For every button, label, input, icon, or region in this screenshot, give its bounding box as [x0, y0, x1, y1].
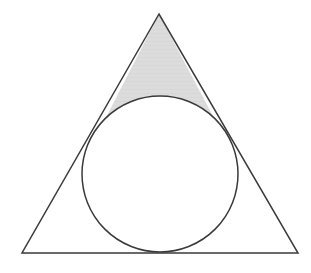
geometry-figure: Triangle with inscribed circle and shade… [0, 0, 311, 273]
inscribed-circle [82, 96, 238, 252]
